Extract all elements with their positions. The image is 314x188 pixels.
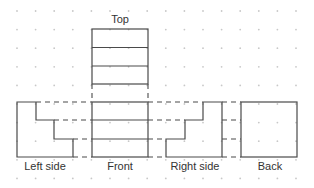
grid-dot: [295, 178, 297, 180]
grid-dot: [295, 66, 297, 68]
back-view-outline: [241, 102, 297, 157]
grid-dot: [109, 140, 111, 142]
grid-dot: [277, 85, 279, 87]
grid-dot: [72, 66, 74, 68]
grid-dot: [295, 10, 297, 12]
grid-dot: [53, 85, 55, 87]
grid-dot: [165, 10, 167, 12]
grid-dot: [146, 10, 148, 12]
grid-dot: [16, 10, 18, 12]
left-side-view-label: Left side: [24, 160, 66, 172]
grid-dot: [184, 66, 186, 68]
right-side-view-label: Right side: [171, 160, 220, 172]
top-view: [92, 29, 148, 102]
grid-dot: [277, 178, 279, 180]
grid-dot: [35, 29, 37, 31]
front-view-outline: [92, 102, 148, 157]
grid-dot: [146, 178, 148, 180]
grid-dot: [258, 178, 260, 180]
grid-dot: [109, 10, 111, 12]
grid-dot: [295, 159, 297, 161]
projection-lines: [36, 102, 241, 157]
grid-dot: [35, 47, 37, 49]
grid-dot: [295, 29, 297, 31]
grid-dot: [53, 140, 55, 142]
top-view-label: Top: [111, 13, 129, 25]
grid-dot: [91, 178, 93, 180]
grid-dot: [109, 122, 111, 124]
grid-dot: [109, 85, 111, 87]
grid-dot: [239, 66, 241, 68]
grid-dot: [184, 47, 186, 49]
grid-dot: [202, 10, 204, 12]
grid-dot: [202, 66, 204, 68]
projection-diagram: Top Left side Front Right side Back: [0, 0, 314, 188]
grid-dot: [184, 85, 186, 87]
grid-dot: [295, 85, 297, 87]
grid-dot: [165, 66, 167, 68]
grid-dot: [239, 159, 241, 161]
grid-dot: [277, 103, 279, 105]
grid-dot: [239, 47, 241, 49]
grid-dot: [16, 85, 18, 87]
grid-dot: [53, 29, 55, 31]
grid-dot: [221, 47, 223, 49]
grid-dot: [221, 178, 223, 180]
grid-dot: [239, 178, 241, 180]
grid-dot: [72, 178, 74, 180]
left-side-outline: [17, 102, 73, 157]
grid-dot: [35, 140, 37, 142]
back-view: [241, 102, 297, 157]
grid-dot: [91, 159, 93, 161]
grid-dot: [128, 85, 130, 87]
grid-dot: [72, 47, 74, 49]
grid-dot: [239, 29, 241, 31]
grid-dot: [165, 159, 167, 161]
grid-dot: [16, 47, 18, 49]
top-view-outline: [92, 29, 148, 84]
grid-dot: [202, 140, 204, 142]
grid-dot: [53, 66, 55, 68]
grid-dot: [184, 29, 186, 31]
grid-dot: [165, 178, 167, 180]
grid-dot: [128, 103, 130, 105]
grid-dot: [165, 29, 167, 31]
grid-dot: [16, 159, 18, 161]
grid-dot: [277, 47, 279, 49]
grid-dot: [72, 122, 74, 124]
grid-dot: [72, 103, 74, 105]
grid-dot: [221, 10, 223, 12]
grid-dot: [184, 178, 186, 180]
grid-dot: [202, 29, 204, 31]
grid-dot: [202, 47, 204, 49]
grid-dot: [258, 140, 260, 142]
grid-dot: [258, 85, 260, 87]
grid-dot: [53, 103, 55, 105]
grid-dot: [221, 29, 223, 31]
grid-dot: [239, 10, 241, 12]
grid-dot: [72, 159, 74, 161]
grid-dot: [165, 122, 167, 124]
grid-dot: [53, 10, 55, 12]
front-view: [92, 102, 148, 157]
grid-dot: [239, 85, 241, 87]
grid-dot: [53, 47, 55, 49]
dot-grid: [16, 10, 297, 179]
grid-dot: [16, 178, 18, 180]
grid-dot: [53, 178, 55, 180]
grid-dot: [165, 85, 167, 87]
grid-dot: [277, 66, 279, 68]
grid-dot: [258, 66, 260, 68]
grid-dot: [16, 29, 18, 31]
grid-dot: [258, 47, 260, 49]
grid-dot: [128, 10, 130, 12]
grid-dot: [184, 140, 186, 142]
front-view-label: Front: [107, 160, 133, 172]
grid-dot: [165, 47, 167, 49]
grid-dot: [35, 85, 37, 87]
grid-dot: [202, 178, 204, 180]
grid-dot: [221, 159, 223, 161]
grid-dot: [72, 85, 74, 87]
grid-dot: [72, 10, 74, 12]
left-side-view: [17, 102, 73, 157]
